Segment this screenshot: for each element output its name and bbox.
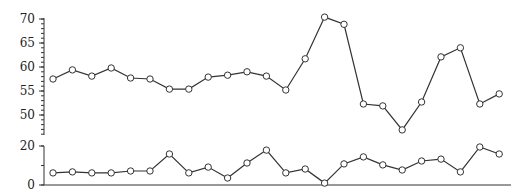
data-point-marker [166, 86, 172, 92]
data-point-marker [50, 76, 56, 82]
data-point-marker [496, 91, 502, 97]
data-point-marker [399, 167, 405, 173]
data-point-marker [283, 87, 289, 93]
data-point-marker [89, 73, 95, 79]
data-point-marker [418, 158, 424, 164]
data-point-marker [89, 170, 95, 176]
data-point-marker [360, 154, 366, 160]
data-point-marker [477, 101, 483, 107]
data-point-marker [205, 164, 211, 170]
y-tick-label: 60 [20, 60, 35, 74]
data-point-marker [186, 170, 192, 176]
data-point-marker [69, 169, 75, 175]
data-point-marker [127, 75, 133, 81]
y-tick-label: 65 [20, 36, 35, 50]
y-tick-label: 0 [27, 178, 35, 192]
data-point-marker [438, 156, 444, 162]
data-point-marker [224, 72, 230, 78]
data-point-marker [341, 21, 347, 27]
data-point-marker [147, 76, 153, 82]
data-point-marker [50, 170, 56, 176]
data-point-marker [477, 144, 483, 150]
data-point-marker [418, 99, 424, 105]
y-tick-label: 20 [20, 139, 35, 153]
data-point-marker [380, 162, 386, 168]
data-point-marker [108, 170, 114, 176]
data-point-marker [283, 170, 289, 176]
data-point-marker [360, 101, 366, 107]
data-point-marker [263, 73, 269, 79]
series-line [53, 17, 499, 130]
data-point-marker [457, 169, 463, 175]
bottom-panel: 020 [20, 139, 511, 192]
data-point-marker [263, 147, 269, 153]
data-point-marker [166, 151, 172, 157]
data-point-marker [244, 69, 250, 75]
y-tick-label: 70 [20, 12, 35, 26]
data-point-marker [205, 74, 211, 80]
data-point-marker [147, 168, 153, 174]
data-point-marker [496, 151, 502, 157]
data-point-marker [186, 86, 192, 92]
data-point-marker [302, 56, 308, 62]
y-tick-label: 50 [20, 108, 35, 122]
data-point-marker [321, 14, 327, 20]
top-panel: 5055606570 [20, 12, 503, 135]
data-point-marker [224, 175, 230, 181]
data-point-marker [341, 161, 347, 167]
data-point-marker [302, 166, 308, 172]
data-point-marker [127, 168, 133, 174]
dual-panel-line-chart: 5055606570 020 [0, 0, 519, 196]
data-point-marker [380, 103, 386, 109]
data-point-marker [69, 67, 75, 73]
data-point-marker [438, 54, 444, 60]
data-point-marker [108, 65, 114, 71]
data-point-marker [399, 127, 405, 133]
data-point-marker [244, 160, 250, 166]
series-line [53, 147, 499, 183]
data-point-marker [457, 45, 463, 51]
data-point-marker [321, 180, 327, 186]
y-tick-label: 55 [20, 84, 35, 98]
